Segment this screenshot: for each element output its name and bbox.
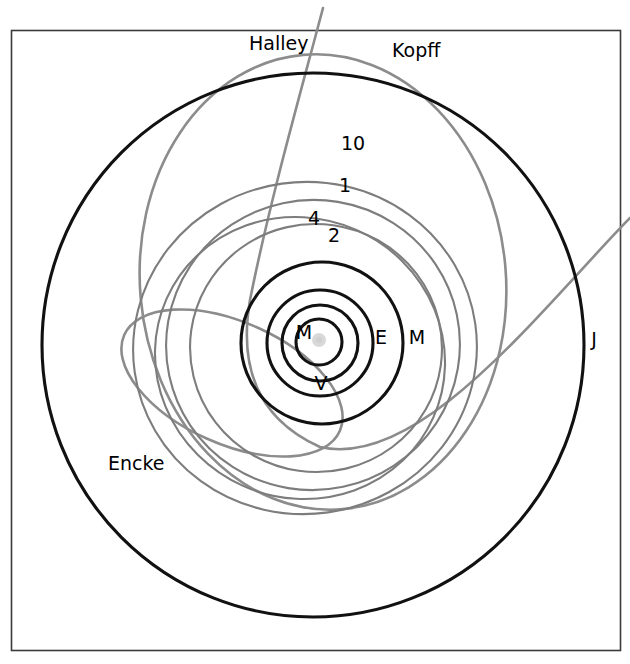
label-asteroid-4-vesta: 4 xyxy=(308,207,320,229)
orbit-diagram-page: Halley Kopff 10 1 4 2 M V E M J Encke xyxy=(0,0,630,664)
label-planet-mercury: M xyxy=(296,321,312,343)
label-asteroid-2-pallas: 2 xyxy=(328,224,340,246)
label-planet-jupiter: J xyxy=(590,328,597,350)
figure-background xyxy=(0,0,630,664)
orbit-diagram-figure: Halley Kopff 10 1 4 2 M V E M J Encke xyxy=(0,0,630,664)
sun-core-icon xyxy=(316,337,322,343)
label-halley: Halley xyxy=(249,32,308,54)
label-kopff: Kopff xyxy=(392,39,441,61)
label-asteroid-1-ceres: 1 xyxy=(339,174,351,196)
label-asteroid-10-hygiea: 10 xyxy=(341,132,365,154)
label-planet-venus: V xyxy=(315,372,328,394)
label-planet-earth: E xyxy=(375,326,387,348)
label-planet-mars: M xyxy=(409,326,425,348)
label-encke: Encke xyxy=(108,452,165,474)
